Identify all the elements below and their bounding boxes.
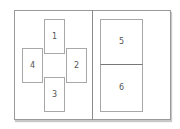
panel-1: 1 [44,19,65,54]
panel-4-label: 4 [30,62,35,70]
panel-6: 6 [100,64,143,112]
panel-1-label: 1 [52,33,57,41]
panel-2: 2 [66,48,87,83]
panel-3: 3 [44,77,65,112]
panel-2-label: 2 [74,62,79,70]
panel-5: 5 [100,19,143,65]
panel-5-label: 5 [119,38,124,46]
panel-4: 4 [22,48,43,83]
panel-6-label: 6 [119,84,124,92]
page-divider [92,10,93,120]
panel-3-label: 3 [52,91,57,99]
